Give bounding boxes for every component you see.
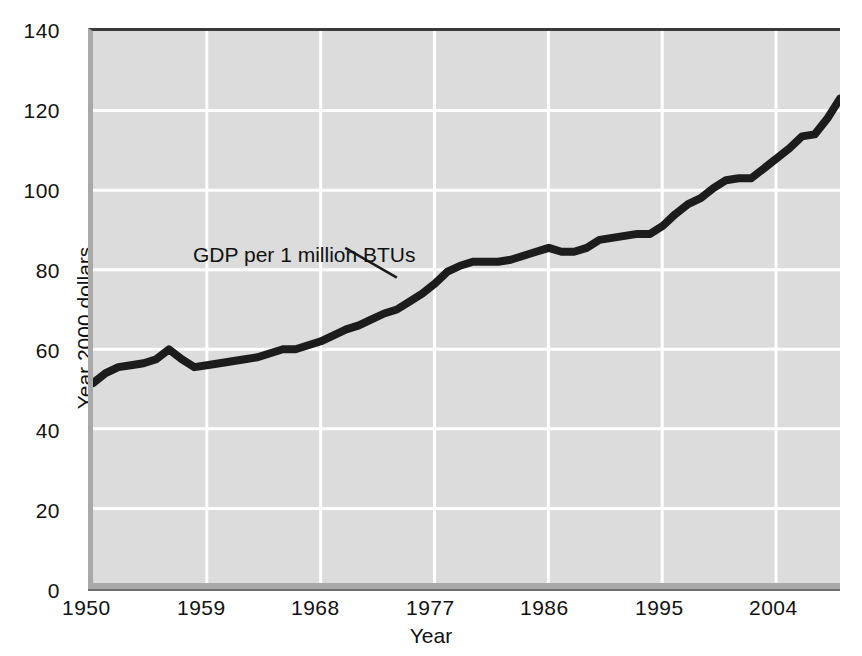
x-tick-label-1995: 1995 (635, 597, 684, 618)
y-tick-label-120: 120 (23, 100, 60, 121)
x-tick-label-1950: 1950 (62, 597, 111, 618)
x-axis-bar (88, 583, 840, 591)
y-tick-label-40: 40 (36, 420, 60, 441)
y-tick-label-140: 140 (23, 20, 60, 41)
x-tick-label-2004: 2004 (749, 597, 798, 618)
chart-figure: Year 2000 dollars 140 120 100 80 60 40 2… (0, 0, 862, 656)
x-tick-label-1968: 1968 (291, 597, 340, 618)
x-axis-title: Year (0, 624, 862, 648)
y-tick-label-60: 60 (36, 340, 60, 361)
series-gdp-per-million-btus (93, 31, 840, 588)
y-tick-label-80: 80 (36, 260, 60, 281)
y-tick-label-100: 100 (23, 180, 60, 201)
x-tick-label-1977: 1977 (406, 597, 455, 618)
plot-area (88, 28, 840, 588)
x-tick-label-1986: 1986 (520, 597, 569, 618)
series-annotation-label: GDP per 1 million BTUs (193, 243, 416, 267)
y-tick-label-0: 0 (48, 580, 60, 601)
y-tick-label-20: 20 (36, 500, 60, 521)
x-tick-label-1959: 1959 (177, 597, 226, 618)
